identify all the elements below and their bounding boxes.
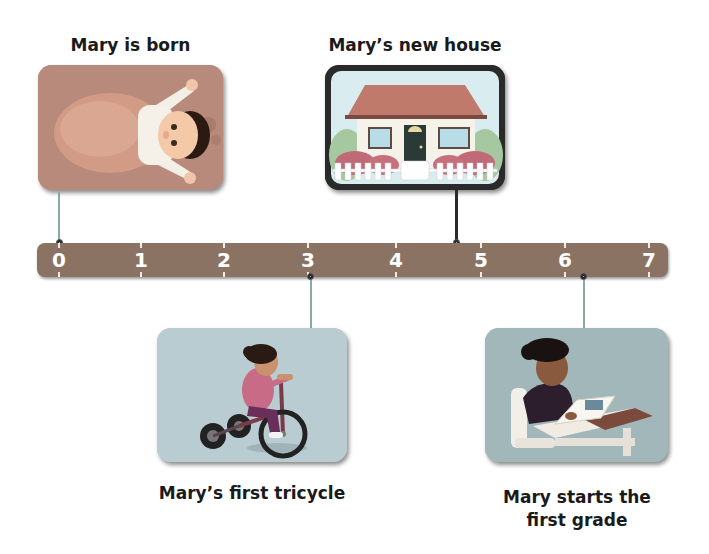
connector-house bbox=[455, 190, 458, 243]
event-label-tricycle: Mary’s first tricycle bbox=[147, 482, 357, 504]
tick-label-6: 6 bbox=[555, 247, 575, 273]
event-card-house bbox=[325, 65, 505, 190]
marker-dot-grade bbox=[580, 273, 587, 280]
girl-reading-at-desk-illustration bbox=[485, 328, 668, 462]
tick-label-4: 4 bbox=[386, 247, 406, 273]
event-label-grade-line1: Mary starts the bbox=[480, 486, 674, 508]
tick-label-7: 7 bbox=[639, 247, 659, 273]
tick-label-3: 3 bbox=[298, 247, 318, 273]
tick-label-0: 0 bbox=[49, 247, 69, 273]
event-label-house: Mary’s new house bbox=[325, 34, 505, 56]
event-card-tricycle bbox=[157, 328, 347, 462]
event-card-grade bbox=[485, 328, 668, 462]
tick-label-1: 1 bbox=[131, 247, 151, 273]
baby-swaddled-illustration bbox=[38, 65, 223, 190]
house-with-picket-fence-illustration bbox=[325, 65, 505, 190]
event-card-born bbox=[38, 65, 223, 190]
tick-label-5: 5 bbox=[471, 247, 491, 273]
connector-grade bbox=[583, 280, 585, 328]
tick-label-2: 2 bbox=[214, 247, 234, 273]
marker-dot-tricycle bbox=[307, 273, 314, 280]
girl-riding-tricycle-illustration bbox=[157, 328, 347, 462]
event-label-grade-line2: first grade bbox=[480, 509, 674, 531]
event-label-born: Mary is born bbox=[38, 34, 223, 56]
connector-born bbox=[58, 190, 60, 243]
connector-tricycle bbox=[310, 280, 312, 328]
